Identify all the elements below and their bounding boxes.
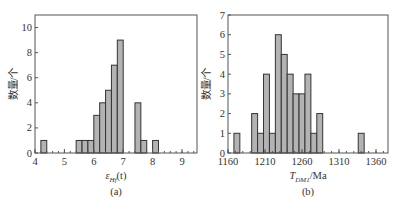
- x-tick-label: 4: [32, 156, 38, 167]
- x-axis-title: TDM1/Ma: [289, 170, 326, 184]
- histogram-bar: [317, 114, 323, 153]
- y-axis-title: 数量/个: [7, 67, 19, 101]
- histogram-bar: [141, 140, 147, 153]
- histogram-bar: [82, 140, 88, 153]
- x-tick-label: 1310: [329, 156, 350, 167]
- y-tick-label: 6: [27, 72, 32, 83]
- y-tick-label: 0: [27, 148, 32, 159]
- histogram-bar: [153, 140, 159, 153]
- histogram-bar: [88, 140, 94, 153]
- histogram-bar: [358, 133, 364, 153]
- histogram-bar: [100, 103, 106, 153]
- histogram-bar: [269, 133, 275, 153]
- x-tick-label: 1360: [366, 156, 387, 167]
- x-tick-label: 1260: [292, 156, 313, 167]
- histogram-bar: [106, 90, 112, 153]
- x-tick-label: 1160: [218, 156, 239, 167]
- y-tick-label: 3: [220, 88, 225, 99]
- histogram-bar: [311, 133, 317, 153]
- histogram-bar: [117, 40, 123, 153]
- y-tick-label: 8: [27, 47, 32, 58]
- histogram-figure: 0246810456789数量/个εHf(t)(a) 0123456711601…: [0, 0, 401, 206]
- y-tick-label: 6: [220, 29, 225, 40]
- histogram-bar: [258, 133, 264, 153]
- histogram-bar: [94, 115, 100, 153]
- histogram-bar: [264, 74, 270, 153]
- histogram-bar: [252, 114, 258, 153]
- y-tick-label: 5: [220, 49, 225, 60]
- histogram-bar: [287, 74, 293, 153]
- histogram-bar: [305, 74, 311, 153]
- histogram-bar: [293, 94, 299, 153]
- y-tick-label: 10: [22, 22, 33, 33]
- y-tick-label: 2: [27, 122, 32, 133]
- y-axis-title: 数量/个: [200, 67, 212, 101]
- histogram-bar: [281, 54, 287, 153]
- y-tick-label: 1: [220, 128, 225, 139]
- histogram-bar: [111, 65, 117, 153]
- histogram-bar: [76, 140, 82, 153]
- x-tick-label: 7: [121, 156, 126, 167]
- histogram-bar: [234, 133, 240, 153]
- y-tick-label: 4: [27, 97, 33, 108]
- histogram-bar: [299, 94, 305, 153]
- x-tick-label: 5: [62, 156, 67, 167]
- y-tick-label: 2: [220, 108, 225, 119]
- x-axis-title: εHf(t): [105, 170, 127, 184]
- y-tick-label: 4: [220, 69, 226, 80]
- x-tick-label: 9: [179, 156, 184, 167]
- histogram-panel-a: 0246810456789数量/个εHf(t)(a): [7, 15, 197, 198]
- histogram-bar: [135, 103, 141, 153]
- x-tick-label: 8: [150, 156, 155, 167]
- histogram-panel-b: 0123456711601210126013101360数量/个TDM1/Ma(…: [200, 10, 388, 199]
- x-tick-label: 1210: [255, 156, 276, 167]
- x-tick-label: 6: [91, 156, 96, 167]
- panel-label: (b): [302, 186, 315, 198]
- panel-label: (a): [110, 186, 122, 198]
- histogram-bar: [275, 35, 281, 153]
- histogram-bar: [41, 140, 47, 153]
- y-tick-label: 7: [220, 10, 225, 21]
